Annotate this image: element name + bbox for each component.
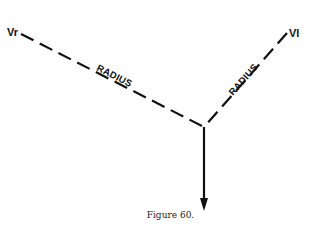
label-vl: Vl bbox=[289, 27, 299, 39]
label-vr: Vr bbox=[7, 26, 19, 38]
vector-diagram: Vr Vl RADIUS RADIUS bbox=[0, 0, 313, 230]
diagram-figure: Vr Vl RADIUS RADIUS Figure 60. bbox=[0, 0, 313, 230]
label-right-radius: RADIUS bbox=[226, 61, 260, 97]
figure-caption: Figure 60. bbox=[0, 210, 313, 220]
